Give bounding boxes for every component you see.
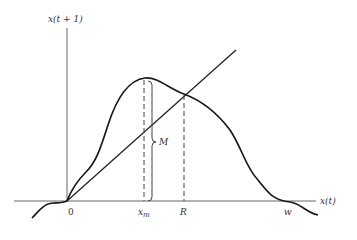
m-brace (148, 81, 156, 201)
origin-label: 0 (68, 207, 74, 217)
w-label: w (284, 207, 292, 217)
m-label: M (158, 137, 169, 147)
r-label: R (179, 207, 187, 217)
x-axis-label: x(t) (320, 196, 336, 206)
y-axis-label: x(t + 1) (48, 14, 83, 24)
xm-label: xm (138, 207, 150, 219)
map-curve (32, 78, 318, 218)
population-map-diagram: x(t + 1) x(t) 0 xm R w M (0, 0, 357, 240)
